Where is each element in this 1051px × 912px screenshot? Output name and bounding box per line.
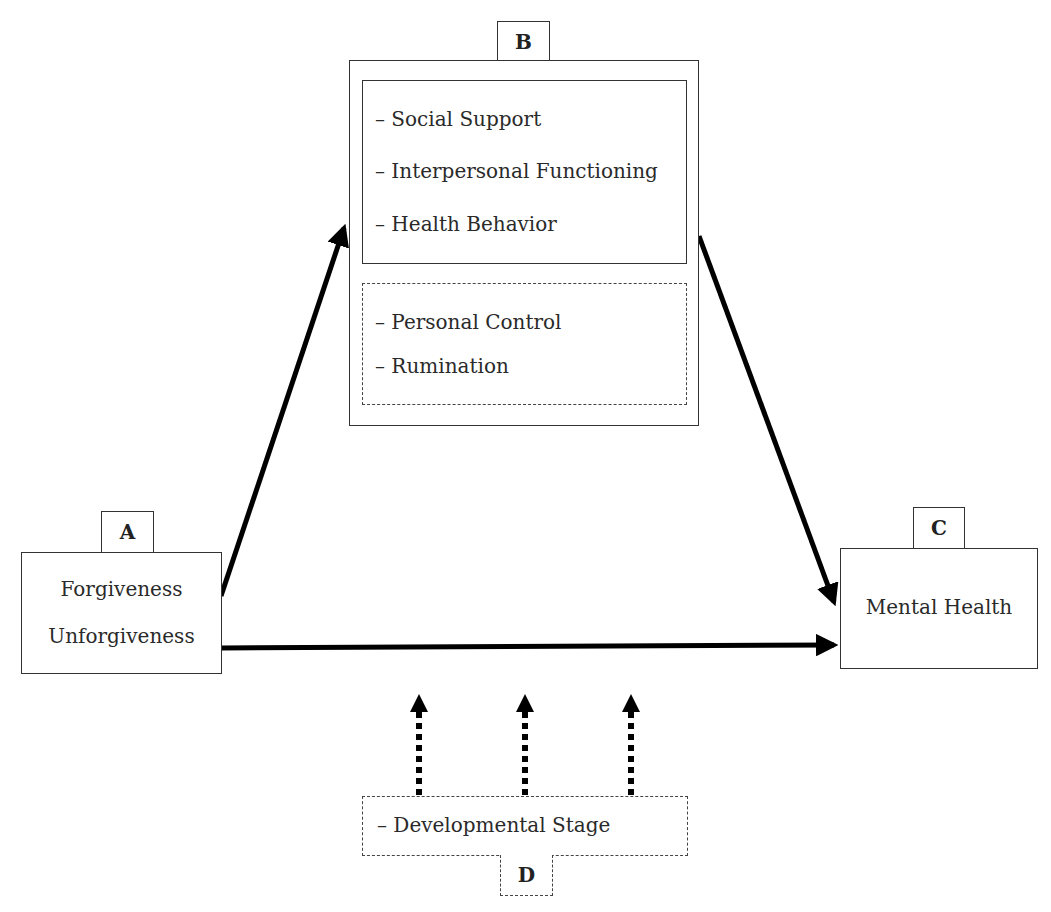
mediators-solid-group: – Social Support – Interpersonal Functio… [362,80,687,264]
node-d-tag: D [500,855,553,896]
arrow-a-to-c [222,645,834,648]
arrow-b-to-c [699,236,834,602]
node-b-mediators: – Social Support – Interpersonal Functio… [349,60,699,426]
node-c-outcome: Mental Health [840,548,1038,669]
node-a-line-2: Unforgiveness [22,624,221,648]
node-a-predictor: Forgiveness Unforgiveness [21,552,222,674]
node-a-tag: A [101,511,154,553]
mediator-item: – Interpersonal Functioning [375,159,658,183]
arrow-a-to-b [221,228,344,596]
dotted-arrow-2-head [516,694,534,712]
mediator-item: – Rumination [375,354,509,378]
node-d-moderator: – Developmental Stage [362,796,688,856]
mediator-item: – Personal Control [375,310,561,334]
mediator-item: – Health Behavior [375,212,557,236]
node-b-tag: B [497,21,550,62]
node-c-line-1: Mental Health [841,595,1037,619]
dotted-arrow-1-head [410,694,428,712]
node-a-line-1: Forgiveness [22,577,221,601]
dotted-arrow-3-head [622,694,640,712]
moderator-arrows [410,694,640,795]
mediators-dashed-group: – Personal Control – Rumination [362,283,687,405]
moderator-item: – Developmental Stage [377,813,610,837]
node-c-tag: C [913,507,965,549]
mediator-item: – Social Support [375,107,541,131]
